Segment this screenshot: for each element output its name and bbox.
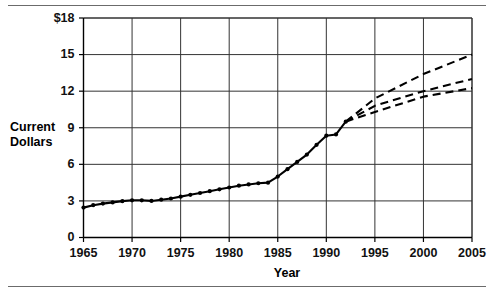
- data-point-marker: [208, 189, 212, 193]
- data-point-marker: [101, 202, 105, 206]
- data-point-marker: [276, 174, 280, 178]
- x-tick-label: 1990: [312, 246, 340, 260]
- y-axis-title-line-2: Dollars: [10, 135, 52, 149]
- x-tick-label: 1980: [215, 246, 243, 260]
- data-point-marker: [256, 181, 260, 185]
- data-point-marker: [120, 199, 124, 203]
- data-point-marker: [295, 160, 299, 164]
- projection-line: [346, 55, 472, 122]
- data-point-marker: [217, 187, 221, 191]
- data-point-marker: [266, 181, 270, 185]
- y-tick-label: 15: [61, 47, 75, 61]
- y-tick-label: $18: [54, 11, 75, 25]
- data-point-marker: [179, 195, 183, 199]
- data-point-marker: [334, 132, 338, 136]
- y-axis-title-line-1: Current: [10, 120, 56, 134]
- x-tick-label: 1995: [361, 246, 389, 260]
- data-point-marker: [81, 206, 85, 210]
- data-point-marker: [305, 152, 309, 156]
- x-axis-title: Year: [274, 266, 301, 280]
- data-point-marker: [91, 203, 95, 207]
- x-tick-label: 2000: [410, 246, 438, 260]
- projection-line: [346, 88, 472, 122]
- data-point-marker: [149, 199, 153, 203]
- x-axis-tick-labels: 196519701975198019851990199520002005: [70, 246, 486, 260]
- x-tick-label: 2005: [458, 246, 486, 260]
- data-point-marker: [198, 191, 202, 195]
- x-tick-label: 1965: [70, 246, 98, 260]
- data-point-marker: [285, 167, 289, 171]
- y-tick-label: 6: [68, 157, 75, 171]
- y-tick-label: 3: [68, 194, 75, 208]
- data-point-marker: [324, 134, 328, 138]
- data-point-marker: [247, 182, 251, 186]
- data-point-marker: [188, 193, 192, 197]
- x-tick-label: 1985: [264, 246, 292, 260]
- y-tick-label: 9: [68, 121, 75, 135]
- data-point-marker: [169, 196, 173, 200]
- data-point-marker: [227, 185, 231, 189]
- data-point-marker: [237, 184, 241, 188]
- x-tick-label: 1970: [118, 246, 146, 260]
- data-series-layer: [81, 55, 472, 210]
- y-tick-label: 0: [68, 230, 75, 244]
- data-point-marker: [140, 198, 144, 202]
- data-point-marker: [130, 198, 134, 202]
- data-point-marker: [315, 143, 319, 147]
- data-point-marker: [111, 200, 115, 204]
- chart-figure: 03691215$18 1965197019751980198519901995…: [0, 0, 494, 291]
- y-tick-label: 12: [61, 84, 75, 98]
- data-point-marker: [159, 198, 163, 202]
- y-axis-tick-labels: 03691215$18: [54, 11, 75, 245]
- x-tick-label: 1975: [167, 246, 195, 260]
- line-chart-plot: 03691215$18 1965197019751980198519901995…: [0, 0, 494, 291]
